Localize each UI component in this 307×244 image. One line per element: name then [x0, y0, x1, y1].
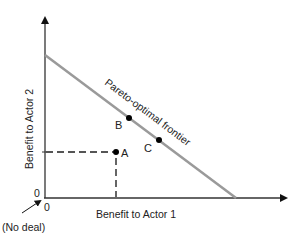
x-axis-label: Benefit to Actor 1	[96, 208, 176, 220]
point-c-label: C	[144, 142, 152, 154]
y-origin-label: 0	[34, 187, 40, 199]
pareto-frontier-line	[45, 55, 236, 198]
point-b-label: B	[115, 119, 122, 131]
point-a	[113, 149, 119, 155]
point-b	[126, 115, 132, 121]
frontier-label: Pareto-optimal frontier	[103, 76, 194, 148]
pareto-diagram: A B C Pareto-optimal frontier Benefit to…	[0, 0, 307, 244]
x-origin-label: 0	[44, 201, 50, 213]
no-deal-arrow	[22, 201, 40, 213]
no-deal-label: (No deal)	[2, 221, 45, 233]
y-axis-label: Benefit to Actor 2	[23, 89, 35, 169]
point-c	[156, 137, 162, 143]
point-a-label: A	[121, 147, 129, 159]
